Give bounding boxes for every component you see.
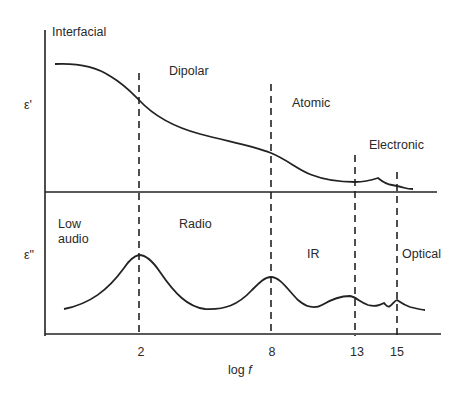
region-label-interfacial: Interfacial <box>52 25 106 40</box>
region-label-low-audio: Low audio <box>58 217 89 247</box>
epsilon-double-prime-curve <box>64 255 425 310</box>
x-tick-15: 15 <box>390 345 404 359</box>
x-tick-8: 8 <box>269 345 276 359</box>
x-tick-2: 2 <box>138 345 145 359</box>
dielectric-spectrum-diagram <box>0 0 470 393</box>
region-label-electronic: Electronic <box>369 138 424 153</box>
x-axis-label-prefix: log <box>228 363 248 377</box>
x-axis-label: log f <box>228 363 252 378</box>
region-label-radio: Radio <box>179 217 212 232</box>
region-label-optical: Optical <box>402 247 441 262</box>
x-tick-13: 13 <box>350 345 364 359</box>
upper-y-label: ε' <box>24 98 32 113</box>
x-axis-label-variable: f <box>248 363 251 377</box>
region-label-atomic: Atomic <box>292 96 330 111</box>
epsilon-prime-curve <box>55 64 413 189</box>
lower-y-label: ε" <box>24 248 34 263</box>
region-label-ir: IR <box>307 247 320 262</box>
region-label-dipolar: Dipolar <box>169 64 209 79</box>
